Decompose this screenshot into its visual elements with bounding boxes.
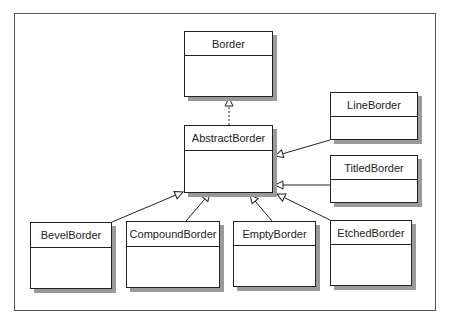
class-abstract-border[interactable]: AbstractBorder	[184, 125, 273, 193]
class-name: EmptyBorder	[234, 222, 315, 246]
generalization-bevel-to-abstract	[112, 192, 183, 222]
class-etched-border[interactable]: EtchedBorder	[330, 220, 412, 286]
class-name: Border	[185, 32, 272, 56]
class-name: TitledBorder	[331, 156, 417, 180]
class-titled-border[interactable]: TitledBorder	[330, 155, 418, 203]
class-compound-border[interactable]: CompoundBorder	[126, 221, 220, 288]
class-name: LineBorder	[331, 93, 417, 117]
class-empty-border[interactable]: EmptyBorder	[233, 221, 316, 287]
class-bevel-border[interactable]: BevelBorder	[30, 222, 112, 289]
class-name: BevelBorder	[31, 223, 111, 248]
generalization-line-to-abstract	[275, 140, 330, 156]
generalization-etched-to-abstract	[277, 194, 330, 220]
class-name: CompoundBorder	[127, 222, 219, 247]
class-line-border[interactable]: LineBorder	[330, 92, 418, 140]
generalization-compound-to-abstract	[186, 193, 210, 221]
class-border[interactable]: Border	[184, 31, 273, 97]
class-name: EtchedBorder	[331, 221, 411, 245]
class-name: AbstractBorder	[185, 126, 272, 151]
generalization-empty-to-abstract	[250, 195, 272, 221]
